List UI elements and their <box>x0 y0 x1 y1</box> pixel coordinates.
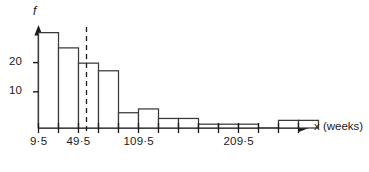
y-tick-label-20: 20 <box>9 55 22 67</box>
histogram-figure: f 20 10 9·5 49·5 109·5 209·5 x (weeks) <box>0 0 369 172</box>
x-tick-label-2: 49·5 <box>67 135 91 147</box>
histogram-bar <box>219 124 239 128</box>
histogram-bar <box>39 33 59 128</box>
histogram-bar <box>199 124 219 128</box>
histogram-bar <box>79 63 99 128</box>
histogram-bar <box>239 124 259 128</box>
histogram-bar <box>279 120 299 128</box>
histogram-bar <box>99 71 119 128</box>
x-tick-label-3: 109·5 <box>124 135 154 147</box>
x-axis-label: x (weeks) <box>314 120 363 132</box>
histogram-bar <box>59 48 79 128</box>
histogram-plot-area <box>0 0 369 172</box>
x-tick-label-1: 9·5 <box>30 135 47 147</box>
y-tick-label-10: 10 <box>9 84 22 96</box>
histogram-bar <box>159 118 179 128</box>
x-tick-label-4: 209·5 <box>224 135 254 147</box>
histogram-bar <box>179 118 199 128</box>
histogram-bar <box>139 109 159 128</box>
y-axis-label: f <box>33 4 36 18</box>
histogram-bar <box>119 113 139 128</box>
histogram-bars <box>39 33 319 128</box>
